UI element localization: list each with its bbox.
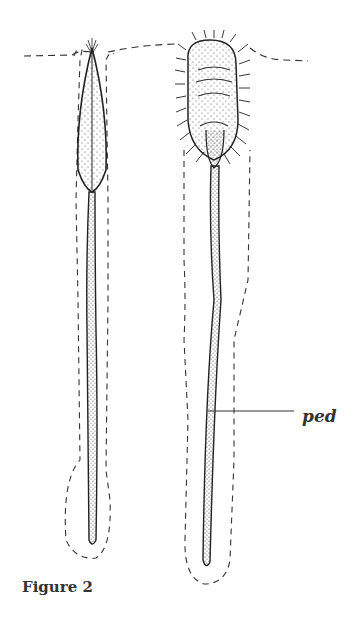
right-stalk [203,166,221,566]
surface-line [24,44,308,61]
figure-caption: Figure 2 [22,578,93,596]
left-stalk [87,192,97,544]
right-head [175,30,250,168]
figure-illustration [0,0,364,621]
ped-label: ped [302,406,337,426]
